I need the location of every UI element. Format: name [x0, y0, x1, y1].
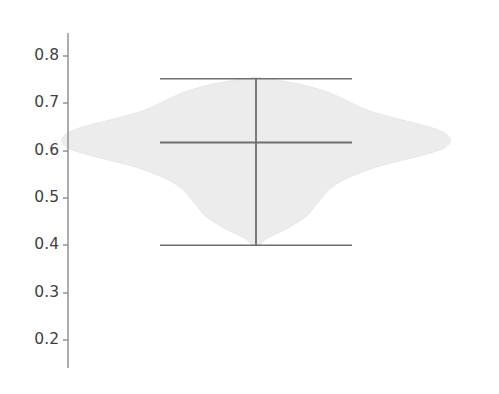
- y-axis-tick-label: 0.8: [17, 48, 59, 64]
- y-axis-tick-label: 0.4: [17, 237, 59, 253]
- y-axis-tick-marks: [63, 56, 68, 340]
- y-axis-tick-label: 0.7: [17, 95, 59, 111]
- plot-canvas: [0, 0, 499, 394]
- axis-group: [63, 33, 68, 368]
- y-axis-tick-label: 0.3: [17, 285, 59, 301]
- y-axis-tick-label: 0.2: [17, 332, 59, 348]
- y-axis-tick-label: 0.5: [17, 190, 59, 206]
- y-axis-tick-label: 0.6: [17, 143, 59, 159]
- violin-plot-figure: 0.80.70.60.50.40.30.2: [0, 0, 499, 394]
